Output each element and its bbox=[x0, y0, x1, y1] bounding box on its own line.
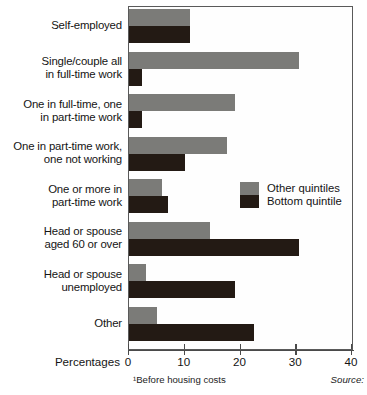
chart-footnote: ¹Before housing costs bbox=[133, 374, 226, 385]
category-label-1: Single/couple allin full-time work bbox=[0, 55, 122, 82]
category-label-line: in part-time work bbox=[0, 111, 122, 124]
x-tick-inner-30 bbox=[295, 344, 296, 349]
category-label-line: aged 60 or over bbox=[0, 238, 122, 251]
bar-other-quintiles-4 bbox=[129, 179, 162, 196]
category-label-2: One in full-time, onein part-time work bbox=[0, 98, 122, 125]
category-label-5: Head or spouseaged 60 or over bbox=[0, 225, 122, 252]
category-label-0: Self-employed bbox=[0, 19, 122, 32]
bar-other-quintiles-7 bbox=[129, 307, 157, 324]
category-label-line: One or more in bbox=[0, 183, 122, 196]
bar-bottom-quintile-5 bbox=[129, 239, 299, 256]
x-tick-inner-0 bbox=[128, 344, 129, 349]
legend-label-other-quintiles: Other quintiles bbox=[259, 182, 340, 195]
legend-label-bottom-quintile: Bottom quintile bbox=[259, 195, 342, 208]
chart-figure: Self-employedSingle/couple allin full-ti… bbox=[0, 0, 367, 395]
bar-bottom-quintile-2 bbox=[129, 111, 142, 128]
category-label-line: part-time work bbox=[0, 196, 122, 209]
category-label-3: One in part-time work,one not working bbox=[0, 140, 122, 167]
bar-bottom-quintile-4 bbox=[129, 196, 168, 213]
bar-bottom-quintile-1 bbox=[129, 69, 142, 86]
chart-legend: Other quintiles Bottom quintile bbox=[240, 182, 342, 208]
x-tick-label-10: 10 bbox=[164, 355, 204, 368]
bar-other-quintiles-2 bbox=[129, 94, 235, 111]
bar-bottom-quintile-6 bbox=[129, 281, 235, 298]
x-tick-inner-20 bbox=[240, 344, 241, 349]
category-label-line: One in full-time, one bbox=[0, 98, 122, 111]
x-tick-label-40: 40 bbox=[331, 355, 367, 368]
bar-other-quintiles-1 bbox=[129, 52, 299, 69]
x-tick-label-30: 30 bbox=[275, 355, 315, 368]
category-label-line: Other bbox=[0, 317, 122, 330]
bar-other-quintiles-6 bbox=[129, 264, 146, 281]
category-label-4: One or more inpart-time work bbox=[0, 183, 122, 210]
x-tick-inner-10 bbox=[184, 344, 185, 349]
category-label-line: unemployed bbox=[0, 281, 122, 294]
category-label-line: One in part-time work, bbox=[0, 140, 122, 153]
category-label-column: Self-employedSingle/couple allin full-ti… bbox=[0, 6, 122, 350]
category-label-line: one not working bbox=[0, 153, 122, 166]
legend-swatch-bottom-quintile bbox=[240, 195, 259, 208]
bar-other-quintiles-5 bbox=[129, 222, 210, 239]
category-label-line: Self-employed bbox=[0, 19, 122, 32]
chart-source-label: Source: bbox=[331, 374, 364, 385]
category-label-line: Head or spouse bbox=[0, 225, 122, 238]
category-label-line: Head or spouse bbox=[0, 268, 122, 281]
category-label-line: in full-time work bbox=[0, 68, 122, 81]
bar-bottom-quintile-7 bbox=[129, 324, 254, 341]
legend-item-other-quintiles: Other quintiles bbox=[240, 182, 342, 195]
bar-other-quintiles-3 bbox=[129, 137, 227, 154]
bars-layer bbox=[129, 7, 352, 349]
x-tick-label-20: 20 bbox=[220, 355, 260, 368]
bar-other-quintiles-0 bbox=[129, 9, 190, 26]
category-label-line: Single/couple all bbox=[0, 55, 122, 68]
category-label-6: Head or spouseunemployed bbox=[0, 268, 122, 295]
x-tick-inner-40 bbox=[351, 344, 352, 349]
legend-swatch-other-quintiles bbox=[240, 182, 259, 195]
legend-item-bottom-quintile: Bottom quintile bbox=[240, 195, 342, 208]
category-label-7: Other bbox=[0, 317, 122, 330]
x-axis-title: Percentages bbox=[28, 355, 120, 368]
bar-bottom-quintile-0 bbox=[129, 26, 190, 43]
bar-bottom-quintile-3 bbox=[129, 154, 185, 171]
